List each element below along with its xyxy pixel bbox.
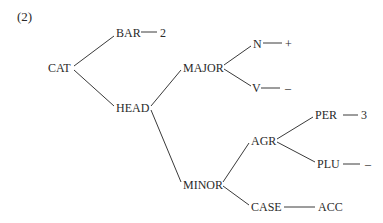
edge-head-minor — [151, 110, 181, 182]
node-major: MAJOR — [183, 61, 224, 75]
node-per: PER — [315, 108, 337, 122]
node-cat: CAT — [48, 61, 71, 75]
edge-minor-case — [223, 186, 249, 205]
feature-tree-diagram: (2) CAT BAR 2 HEAD MAJOR N + — [0, 0, 383, 223]
edge-major-v — [224, 69, 251, 86]
edge-agr-plu — [277, 142, 315, 162]
node-plu: PLU — [317, 157, 340, 171]
value-v: – — [284, 81, 292, 95]
node-bar: BAR — [116, 26, 141, 40]
node-minor: MINOR — [183, 178, 223, 192]
value-per: 3 — [361, 108, 367, 122]
edge-agr-per — [277, 117, 313, 139]
edge-cat-head — [74, 70, 114, 106]
node-case: CASE — [251, 200, 282, 214]
tree-nodes: CAT BAR 2 HEAD MAJOR N + V – MINOR AGR P… — [48, 26, 372, 214]
node-v: V — [252, 81, 261, 95]
value-case: ACC — [318, 200, 343, 214]
edge-cat-bar — [74, 36, 114, 66]
edge-major-n — [224, 46, 251, 65]
value-plu: – — [364, 157, 372, 171]
node-agr: AGR — [251, 134, 276, 148]
node-head: HEAD — [116, 101, 150, 115]
example-number: (2) — [17, 9, 32, 24]
edge-head-major — [151, 70, 181, 106]
value-bar: 2 — [160, 26, 166, 40]
node-n: N — [253, 37, 262, 51]
value-n: + — [285, 37, 292, 51]
edge-minor-agr — [223, 143, 249, 182]
